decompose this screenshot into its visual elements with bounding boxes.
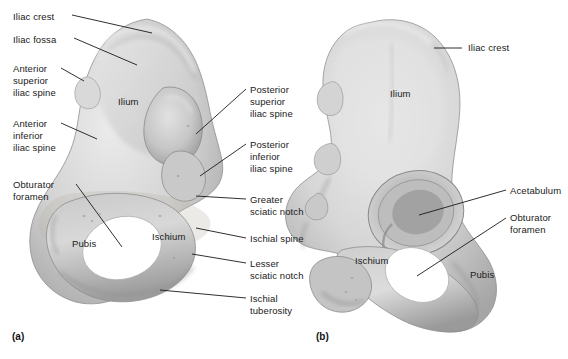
leader-lesser-notch bbox=[192, 254, 246, 263]
caption-b: (b) bbox=[316, 331, 329, 342]
asis-line-1: Anterior bbox=[13, 63, 47, 75]
region-label-ilium-b: Ilium bbox=[390, 88, 411, 100]
label-ischial-spine: Ischial spine bbox=[250, 233, 304, 245]
region-label-pubis-a: Pubis bbox=[72, 238, 96, 250]
piis-line-2: inferior bbox=[250, 151, 280, 163]
region-label-pubis-b: Pubis bbox=[470, 269, 494, 281]
asis-line-3: iliac spine bbox=[13, 87, 56, 99]
tuberosity-line-1: Ischial bbox=[250, 293, 278, 305]
region-label-ilium-a: Ilium bbox=[118, 96, 139, 108]
obturator-a-line-1: Obturator bbox=[13, 179, 54, 191]
label-iliac-fossa: Iliac fossa bbox=[13, 34, 56, 46]
psis-line-1: Posterior bbox=[250, 84, 289, 96]
anatomy-figure: Iliac crest Iliac fossa Anterior superio… bbox=[0, 0, 568, 359]
label-iliac-crest: Iliac crest bbox=[13, 11, 54, 23]
leader-tuberosity bbox=[160, 290, 246, 298]
greater-line-1: Greater bbox=[250, 194, 283, 206]
psis-line-2: superior bbox=[250, 96, 285, 108]
greater-line-2: sciatic notch bbox=[250, 206, 304, 218]
aiis-line-1: Anterior bbox=[13, 118, 47, 130]
piis-line-1: Posterior bbox=[250, 139, 289, 151]
psis-bump-b bbox=[317, 82, 343, 116]
region-label-ischium-b: Ischium bbox=[355, 255, 388, 267]
leader-asis bbox=[61, 68, 84, 81]
psis-line-3: iliac spine bbox=[250, 108, 293, 120]
label-acetabulum: Acetabulum bbox=[510, 185, 561, 197]
piis-bump-b bbox=[314, 143, 340, 174]
obturator-a-line-2: foramen bbox=[13, 191, 49, 203]
obturator-b-line-2: foramen bbox=[510, 224, 546, 236]
aiis-line-3: iliac spine bbox=[13, 142, 56, 154]
lesser-line-1: Lesser bbox=[250, 258, 279, 270]
caption-a: (a) bbox=[12, 331, 24, 342]
aiis-line-2: inferior bbox=[13, 130, 43, 142]
tuberosity-line-2: tuberosity bbox=[250, 305, 292, 317]
bone-a bbox=[30, 19, 223, 304]
region-label-ischium-a: Ischium bbox=[152, 231, 185, 243]
lesser-line-2: sciatic notch bbox=[250, 270, 304, 282]
obturator-b-line-1: Obturator bbox=[510, 212, 551, 224]
bone-b bbox=[286, 20, 497, 332]
piis-line-3: iliac spine bbox=[250, 163, 293, 175]
label-iliac-crest-b: Iliac crest bbox=[468, 42, 509, 54]
asis-line-2: superior bbox=[13, 75, 48, 87]
